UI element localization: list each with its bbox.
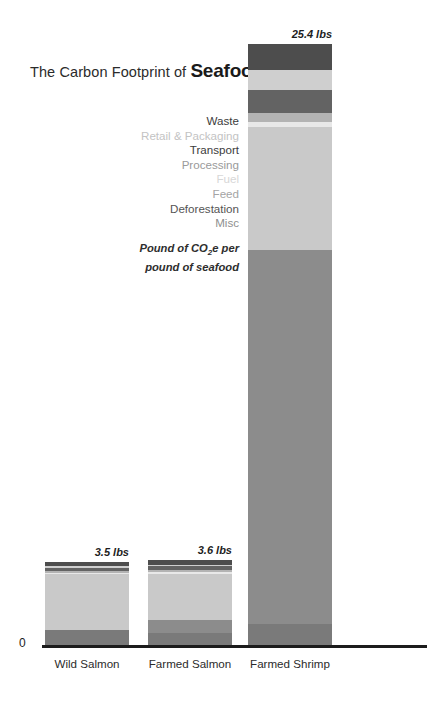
bar-segment-transport (248, 90, 332, 112)
bar-value-label-farmed-shrimp: 25.4 lbs (222, 28, 332, 40)
plot-area: 3.5 lbsWild Salmon3.6 lbsFarmed Salmon25… (0, 0, 432, 714)
bar-segment-deforestation (248, 250, 332, 624)
bar-segment-waste (248, 44, 332, 70)
bar-segment-feed (248, 127, 332, 250)
bar-segment-feed (148, 574, 232, 620)
y-axis-zero-label: 0 (19, 636, 26, 650)
bar-segment-misc (148, 633, 232, 645)
bar-value-label-farmed-salmon: 3.6 lbs (122, 544, 232, 556)
bar-segment-feed (45, 574, 129, 630)
bar-segment-retail-packaging (248, 70, 332, 90)
bar-segment-deforestation (148, 620, 232, 633)
bar-segment-misc (248, 624, 332, 645)
bar-farmed-salmon[interactable] (148, 560, 232, 645)
bar-value-label-wild-salmon: 3.5 lbs (19, 546, 129, 558)
bar-farmed-shrimp[interactable] (248, 44, 332, 645)
bar-segment-misc (45, 630, 129, 645)
bar-segment-processing (248, 113, 332, 122)
x-axis-label-farmed-shrimp: Farmed Shrimp (230, 657, 350, 670)
x-axis-label-wild-salmon: Wild Salmon (27, 657, 147, 670)
chart-canvas: The Carbon Footprint of Seafood WasteRet… (0, 0, 432, 714)
x-axis-line (42, 645, 427, 648)
bar-wild-salmon[interactable] (45, 562, 129, 645)
